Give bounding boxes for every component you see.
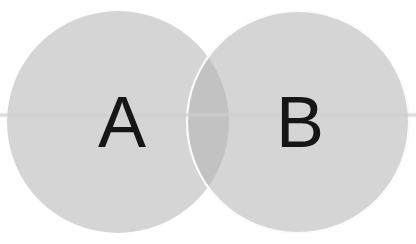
venn-diagram-canvas: A B xyxy=(0,0,416,244)
venn-diagram-svg: A B xyxy=(0,0,416,244)
set-a-label: A xyxy=(98,82,146,162)
set-b-label: B xyxy=(276,82,324,162)
horizontal-seam-artifact xyxy=(0,112,416,118)
